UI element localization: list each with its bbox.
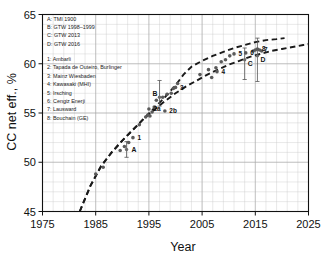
combined-cycle-efficiency-scatter-chart: ABCD12a2b345687 197519851995200520152025… [0, 0, 326, 260]
data-point-label-6: 6 [250, 49, 254, 56]
data-point [207, 68, 211, 72]
y-tick-label: 65 [24, 9, 36, 21]
x-tick-label: 2015 [243, 218, 267, 230]
error-bar-label-A: A [132, 146, 137, 153]
data-point [161, 95, 165, 99]
data-point [94, 172, 98, 176]
x-axis-label: Year [170, 240, 195, 254]
data-point [165, 92, 169, 96]
y-tick-label: 60 [24, 58, 36, 70]
legend-plant-item: 5: Irsching [47, 90, 72, 96]
data-point [214, 66, 218, 70]
legend-source-item: A: TMI 1900 [47, 16, 76, 22]
legend-plant-item: 3: Mainz Wiesbaden [47, 73, 96, 79]
data-point [118, 149, 122, 153]
data-point [215, 70, 219, 74]
data-point [176, 82, 180, 86]
data-point [210, 76, 214, 80]
data-point [198, 73, 202, 77]
data-point-label-3: 3 [180, 84, 184, 91]
x-tick-label: 2005 [190, 218, 214, 230]
error-bar-center-marker [256, 54, 259, 57]
y-tick-label: 55 [24, 107, 36, 119]
data-point-label-4: 4 [221, 68, 225, 75]
data-point [101, 165, 105, 169]
data-point [131, 136, 135, 140]
x-axis-ticks: 197519851995200520152025 [30, 212, 320, 230]
data-point-label-2a: 2a [153, 105, 161, 112]
legend-source-item: D: GTW 2016 [47, 41, 80, 47]
data-point [123, 145, 127, 149]
legend-plant-item: 1: Ambarli [47, 56, 71, 62]
data-point [224, 58, 228, 62]
legend-source-item: C: GTW 2013 [47, 32, 80, 38]
error-bar-center-marker [125, 148, 128, 151]
data-point-label-7: 7 [264, 46, 268, 53]
data-point [228, 54, 232, 58]
data-point [147, 107, 151, 111]
legend-plant-item: 7: Lausward [47, 106, 76, 112]
x-tick-label: 2025 [296, 218, 320, 230]
data-point [155, 98, 159, 102]
legend-plant-item: 6: Cengiz Enerji [47, 98, 85, 104]
data-point-label-5: 5 [239, 50, 243, 57]
legend-plants: 1: Ambarli2: Tapada de Outeiro, Burlinge… [47, 56, 122, 121]
data-point [174, 86, 178, 90]
x-tick-label: 1995 [137, 218, 161, 230]
data-point-label-1: 1 [137, 134, 141, 141]
data-point [127, 141, 131, 145]
data-point [169, 92, 173, 96]
y-tick-label: 45 [24, 206, 36, 218]
data-point [138, 123, 142, 127]
data-point [219, 60, 223, 64]
data-point [163, 109, 167, 113]
legend-plant-item: 2: Tapada de Outeiro, Burlinger [47, 64, 122, 70]
y-tick-label: 50 [24, 156, 36, 168]
data-point-label-2b: 2b [169, 107, 177, 114]
legend-plant-item: 4: Kawasaki (MHI) [47, 81, 91, 87]
data-point [244, 51, 248, 55]
data-point [232, 52, 236, 56]
error-bar-center-marker [243, 58, 246, 61]
error-bar-label-B: B [153, 90, 158, 97]
x-tick-label: 1975 [30, 218, 54, 230]
legend-plant-item: 8: Bouchain (GE) [47, 115, 89, 121]
data-point [148, 114, 152, 118]
error-bar-label-D: D [260, 56, 265, 63]
chart-container: ABCD12a2b345687 197519851995200520152025… [0, 0, 326, 260]
y-axis-label: CC net eff., % [5, 73, 19, 151]
error-bar-label-C: C [248, 60, 253, 67]
legend-sources: A: TMI 1900B: GTW 1998–1999C: GTW 2013D:… [47, 16, 95, 47]
legend-source-item: B: GTW 1998–1999 [47, 24, 95, 30]
error-bar-center-marker [158, 96, 161, 99]
x-tick-label: 1985 [83, 218, 107, 230]
data-point-labels: ABCD12a2b345687 [132, 45, 269, 153]
y-axis-ticks: 4550556065 [24, 9, 43, 218]
